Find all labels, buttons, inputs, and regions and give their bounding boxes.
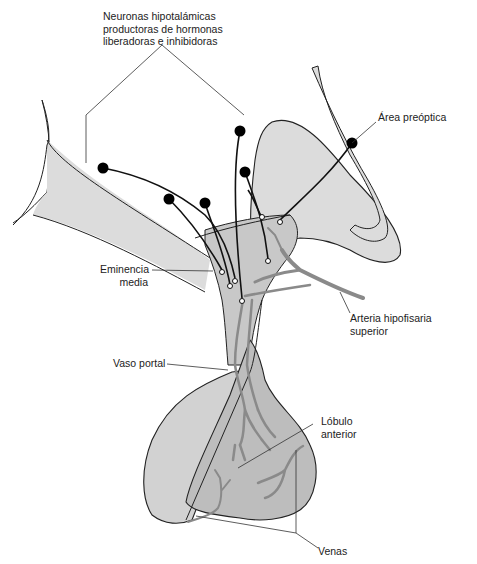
anterior-lobe-label: Lóbulo anterior [321,415,357,440]
veins-text: Venas [318,545,347,558]
anterior-lobe-line2: anterior [321,428,357,441]
preoptic-area-label: Área preóptica [378,111,446,124]
preoptic-leader [352,122,376,143]
superior-artery-label: Arteria hipofisaria superior [350,312,432,337]
median-eminence-line2: media [100,276,148,289]
neurons-label-line2: productoras de hormonas [103,23,223,36]
neurons-label: Neuronas hipotalámicas productoras de ho… [103,10,223,48]
preoptic-area-text: Área preóptica [378,111,446,124]
hypothalamic-pituitary-diagram [0,0,477,564]
superior-artery-line1: Arteria hipofisaria [350,312,432,325]
neurons-label-line1: Neuronas hipotalámicas [103,10,223,23]
median-eminence-label: Eminencia media [100,263,148,288]
veins-label: Venas [318,545,347,558]
neuron-dot [200,198,211,209]
superior-artery-line2: superior [350,325,432,338]
portal-vessel-label: Vaso portal [113,357,165,370]
neuron-dot [164,194,175,205]
neurons-bracket [86,45,244,163]
neurons-label-line3: liberadoras e inhibidoras [103,35,223,48]
portal-vessel-text: Vaso portal [113,357,165,370]
portal-leader [167,364,228,370]
median-eminence-line1: Eminencia [100,263,148,276]
artery-leader [340,292,350,313]
anterior-lobe-line1: Lóbulo [321,415,357,428]
neuron-dot [235,126,246,137]
neuron-dot [98,163,109,174]
neuron-dot [240,167,251,178]
